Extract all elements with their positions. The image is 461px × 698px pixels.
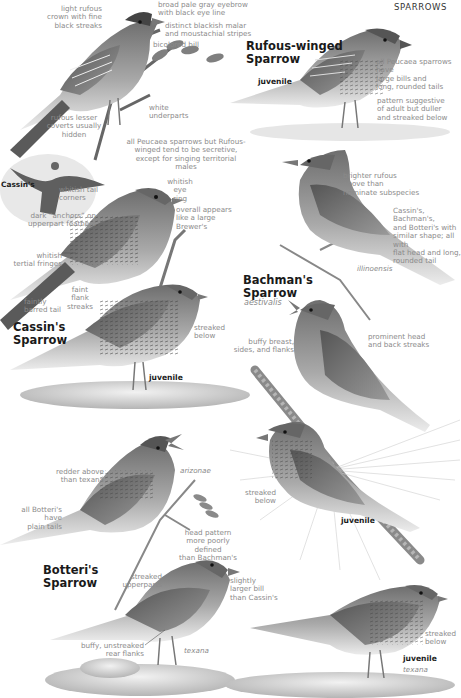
species-title-botteris: Botteri's Sparrow bbox=[43, 564, 98, 589]
section-header: SPARROWS bbox=[394, 2, 447, 12]
annotation-bachmans-streaked-below: streaked below bbox=[240, 489, 276, 506]
label-bachmans-juvenile: juvenile bbox=[341, 516, 375, 525]
annotation-anchors: dark “anchors” on upperpart feathers bbox=[24, 212, 96, 229]
annotation-underparts: white underparts bbox=[149, 104, 189, 121]
species-title-bachmans: Bachman's Sparrow bbox=[243, 274, 313, 299]
annotation-eye-ring: whitish eye ring bbox=[160, 178, 200, 203]
annotation-juvenile-pattern: pattern suggestive of adult but duller a… bbox=[377, 97, 447, 122]
annotation-bill: bicolored bill bbox=[153, 41, 199, 49]
annotation-head-pattern: head pattern more poorly defined than Ba… bbox=[173, 529, 243, 563]
annotation-secretive: all Peucaea sparrows but Rufous- winged … bbox=[124, 138, 248, 172]
label-illinoensis: illinoensis bbox=[357, 264, 392, 273]
annotation-streaked-upperparts: streaked upperparts bbox=[120, 573, 162, 590]
label-arizonae: arizonae bbox=[180, 466, 211, 475]
annotation-overall: overall appears like a large Brewer's bbox=[176, 206, 232, 231]
annotation-buffy-breast: buffy breast, sides, and flanks bbox=[232, 338, 294, 355]
annotation-similar-shape: Cassin's, Bachman's, and Botteri's with … bbox=[393, 207, 461, 266]
annotation-larger-bill: slightly larger bill than Cassin's bbox=[230, 577, 278, 602]
label-cassins-flight: Cassin's bbox=[1, 180, 35, 189]
annotation-malar: distinct blackish malar and moustachial … bbox=[165, 22, 251, 39]
label-aestivalis: aestivalis bbox=[244, 298, 282, 307]
annotation-coverts: rufous lesser coverts usually hidden bbox=[44, 114, 104, 139]
annotation-cassins-streaked-below: streaked below bbox=[194, 324, 225, 341]
annotation-redder: redder above than texana bbox=[52, 468, 104, 485]
annotation-tertials: whitish tertial fringes bbox=[10, 252, 62, 269]
label-texana: texana bbox=[184, 646, 209, 655]
label-botteris-juvenile: juvenile bbox=[403, 654, 437, 663]
annotation-rear-flanks: buffy, unstreaked rear flanks bbox=[80, 642, 144, 659]
annotation-botteris-streaked-below: streaked below bbox=[425, 630, 456, 647]
field-guide-plate: SPARROWS Rufous-winged Sparrow juvenile … bbox=[0, 0, 461, 698]
annotation-peucaea-bills: all Peucaea sparrows have large bills an… bbox=[376, 58, 461, 92]
annotation-plain-tails: all Botteri's have plain tails bbox=[6, 506, 62, 531]
annotation-eyebrow: broad pale gray eyebrow with black eye l… bbox=[158, 1, 248, 18]
annotation-faint-tail: faintly barred tail bbox=[24, 298, 61, 315]
annotation-brighter-rufous: brighter rufous above than nominate subs… bbox=[343, 172, 419, 197]
label-rufous-winged-juvenile: juvenile bbox=[258, 77, 292, 86]
species-title-cassins: Cassin's Sparrow bbox=[13, 321, 67, 346]
label-cassins-juvenile: juvenile bbox=[149, 373, 183, 382]
species-title-rufous-winged: Rufous-winged Sparrow bbox=[246, 40, 343, 65]
annotation-crown: light rufous crown with fine black strea… bbox=[40, 5, 102, 30]
label-botteris-juvenile-texana: texana bbox=[403, 665, 428, 674]
bachmans-juvenile-illustration bbox=[256, 422, 420, 532]
annotation-head-streaks: prominent head and back streaks bbox=[368, 333, 429, 350]
annotation-tail-corners: whitish tail corners bbox=[59, 186, 98, 203]
annotation-flank: faint flank streaks bbox=[62, 286, 98, 311]
